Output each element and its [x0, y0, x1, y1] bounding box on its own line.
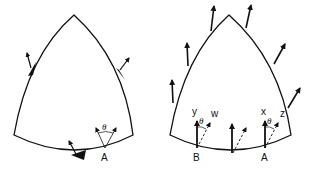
right-point-b-label: B [193, 152, 200, 163]
right-theta-b-label: θ [199, 116, 204, 126]
right-angle-arc-b [197, 127, 206, 129]
left-normal-arrow-bottom [69, 141, 76, 154]
diagram-canvas: θ A θ θ y w x z B A [0, 0, 314, 171]
right-boundary [170, 15, 291, 150]
left-normal-arrow-left [27, 53, 31, 68]
right-arrow-6 [288, 88, 300, 108]
diagram-svg: θ A θ θ y w x z B A [0, 0, 314, 171]
right-theta-a-label: θ [267, 116, 272, 126]
right-angle-arc-a [265, 127, 274, 129]
left-tangent-arrow-left [28, 62, 36, 76]
right-arrow-4 [274, 44, 285, 64]
left-theta-label: θ [102, 122, 107, 132]
right-x-label: x [261, 106, 266, 117]
left-point-a-label: A [101, 152, 108, 163]
right-w-label: w [210, 108, 219, 119]
right-figure: θ θ y w x z B A [170, 5, 300, 163]
right-y-label: y [192, 106, 197, 117]
right-arrow-3 [187, 43, 188, 66]
left-normal-arrow-right [120, 58, 129, 70]
right-arrow-2 [246, 5, 251, 28]
left-tangent-arrow-bottom [71, 150, 86, 160]
right-z-label: z [280, 108, 285, 119]
left-figure: θ A [14, 15, 133, 163]
right-arrow-5 [172, 80, 173, 103]
right-arrow-1 [211, 6, 214, 31]
right-point-a-label: A [261, 152, 268, 163]
